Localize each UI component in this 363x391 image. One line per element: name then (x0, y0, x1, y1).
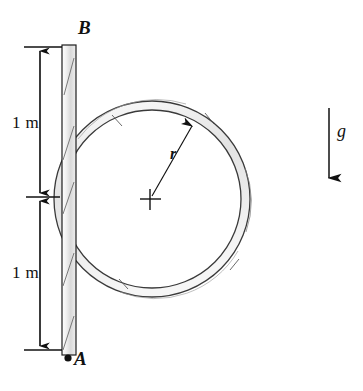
rod-body (62, 45, 76, 355)
gravity-label: g (337, 122, 346, 140)
center-mark (140, 189, 161, 210)
diagram-canvas (0, 0, 363, 391)
point-a-dot (64, 354, 71, 361)
point-a-label: A (74, 349, 87, 368)
point-b-label: B (78, 18, 91, 37)
dimension-label-upper: 1 m (12, 114, 39, 131)
vertical-rod (62, 45, 76, 355)
physics-diagram: B A 1 m 1 m r g (0, 0, 363, 391)
dimension-label-lower: 1 m (12, 264, 39, 281)
radius-label: r (170, 146, 176, 162)
